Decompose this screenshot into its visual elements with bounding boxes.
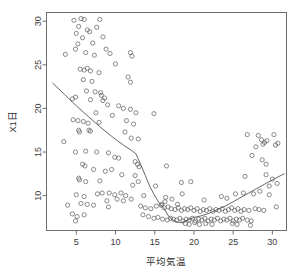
y-axis-title: X1日 xyxy=(7,111,18,133)
y-tick-label: 20 xyxy=(34,103,44,113)
scatter-plot: 510152025301015202530 平均気温 X1日 xyxy=(0,0,295,273)
x-tick-label: 20 xyxy=(189,237,199,247)
x-tick-label: 15 xyxy=(150,237,160,247)
x-tick-label: 25 xyxy=(228,237,238,247)
chart-container: 510152025301015202530 平均気温 X1日 xyxy=(0,0,295,273)
plot-background xyxy=(0,0,295,273)
y-tick-label: 10 xyxy=(34,191,44,201)
x-axis-title: 平均気温 xyxy=(146,256,186,267)
y-tick-label: 15 xyxy=(34,147,44,157)
x-tick-label: 10 xyxy=(111,237,121,247)
y-tick-label: 25 xyxy=(34,60,44,70)
x-tick-label: 30 xyxy=(267,237,277,247)
y-tick-label: 30 xyxy=(34,16,44,26)
x-tick-label: 5 xyxy=(74,237,79,247)
